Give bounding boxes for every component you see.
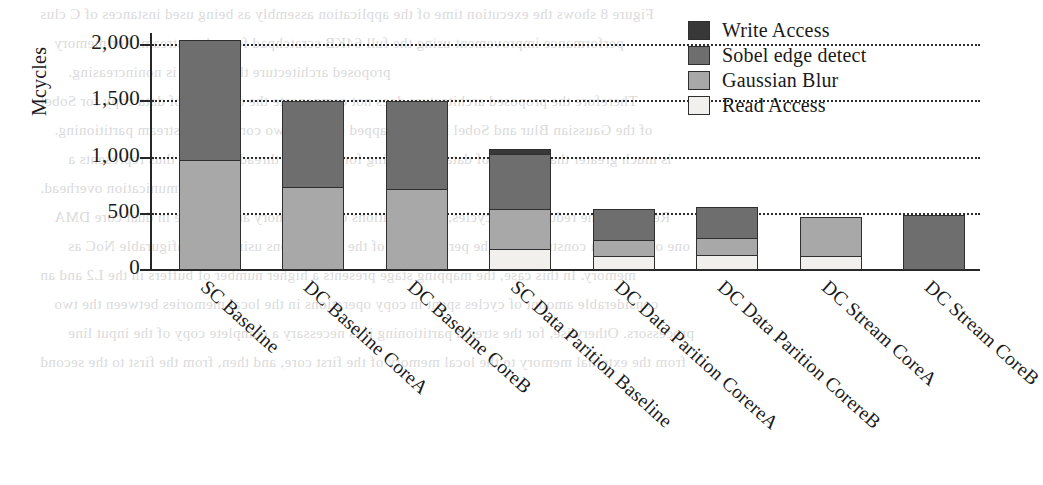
legend-item[interactable]: Sobel edge detect xyxy=(688,43,866,68)
legend-label: Sobel edge detect xyxy=(722,44,866,67)
legend-label: Read Access xyxy=(722,94,826,117)
legend-label: Write Access xyxy=(722,19,830,42)
legend: Write AccessSobel edge detectGaussian Bl… xyxy=(688,18,866,118)
legend-swatch-icon xyxy=(688,21,710,40)
x-axis-tick-label: DC Data Parition CorereA xyxy=(610,276,782,434)
legend-swatch-icon xyxy=(688,96,710,115)
legend-item[interactable]: Write Access xyxy=(688,18,866,43)
legend-item[interactable]: Read Access xyxy=(688,93,866,118)
x-axis-tick-label: SC Baseline xyxy=(196,276,284,358)
legend-swatch-icon xyxy=(688,46,710,65)
x-axis-tick-label: DC Data Parition CorereB xyxy=(714,276,886,434)
legend-swatch-icon xyxy=(688,71,710,90)
legend-item[interactable]: Gaussian Blur xyxy=(688,68,866,93)
legend-label: Gaussian Blur xyxy=(722,69,838,92)
